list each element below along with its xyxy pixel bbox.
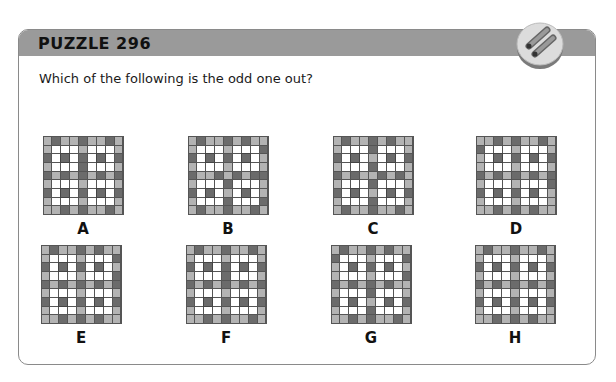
dark-cell: [494, 206, 502, 214]
white-cell: [61, 163, 69, 171]
light-cell: [358, 246, 366, 254]
white-cell: [106, 146, 114, 154]
white-cell: [195, 307, 203, 315]
white-cell: [249, 272, 257, 280]
option-a[interactable]: A: [41, 136, 125, 238]
dark-cell: [369, 163, 377, 171]
option-f[interactable]: F: [184, 245, 268, 347]
dark-cell: [369, 146, 377, 154]
dark-cell: [79, 154, 87, 162]
light-cell: [484, 315, 492, 323]
light-cell: [260, 163, 268, 171]
center-square: [494, 189, 502, 197]
light-cell: [59, 246, 67, 254]
light-cell: [548, 163, 556, 171]
light-cell: [206, 137, 214, 145]
white-cell: [213, 255, 221, 263]
light-cell: [403, 281, 411, 289]
white-cell: [195, 298, 203, 306]
white-cell: [530, 163, 538, 171]
white-cell: [539, 146, 547, 154]
dark-cell: [385, 281, 393, 289]
light-cell: [376, 315, 384, 323]
light-cell: [548, 146, 556, 154]
option-h[interactable]: H: [473, 245, 557, 347]
white-cell: [104, 263, 112, 271]
dark-cell: [511, 281, 519, 289]
pattern-grid: [476, 136, 557, 215]
light-cell: [240, 246, 248, 254]
puzzle-header-band: PUZZLE 296: [19, 30, 595, 56]
dark-cell: [77, 298, 85, 306]
option-e[interactable]: E: [39, 245, 123, 347]
light-cell: [332, 307, 340, 315]
white-cell: [529, 289, 537, 297]
light-cell: [485, 137, 493, 145]
light-cell: [405, 137, 413, 145]
dark-cell: [251, 172, 259, 180]
white-cell: [538, 255, 546, 263]
dark-cell: [369, 137, 377, 145]
white-cell: [50, 298, 58, 306]
white-cell: [538, 307, 546, 315]
center-square: [59, 263, 67, 271]
dark-cell: [405, 154, 413, 162]
white-cell: [484, 272, 492, 280]
dark-cell: [403, 272, 411, 280]
light-cell: [61, 137, 69, 145]
light-cell: [520, 246, 528, 254]
white-cell: [231, 272, 239, 280]
dark-cell: [547, 298, 555, 306]
white-cell: [520, 289, 528, 297]
light-cell: [242, 206, 250, 214]
white-cell: [396, 189, 404, 197]
dark-cell: [197, 137, 205, 145]
light-cell: [231, 246, 239, 254]
white-cell: [520, 263, 528, 271]
dark-cell: [61, 206, 69, 214]
white-cell: [197, 146, 205, 154]
white-cell: [376, 307, 384, 315]
option-c[interactable]: C: [331, 136, 415, 238]
white-cell: [231, 298, 239, 306]
pattern-grid: [331, 245, 412, 324]
white-cell: [376, 289, 384, 297]
white-cell: [204, 255, 212, 263]
option-g[interactable]: G: [329, 245, 413, 347]
white-cell: [215, 198, 223, 206]
light-cell: [340, 281, 348, 289]
white-cell: [88, 154, 96, 162]
option-label: C: [331, 220, 415, 238]
option-d[interactable]: D: [474, 136, 558, 238]
light-cell: [403, 315, 411, 323]
dark-cell: [476, 281, 484, 289]
light-cell: [233, 137, 241, 145]
white-cell: [340, 307, 348, 315]
dark-cell: [394, 315, 402, 323]
white-cell: [484, 289, 492, 297]
white-cell: [342, 154, 350, 162]
light-cell: [405, 206, 413, 214]
option-b[interactable]: B: [186, 136, 270, 238]
light-cell: [547, 246, 555, 254]
white-cell: [86, 307, 94, 315]
light-cell: [79, 146, 87, 154]
light-cell: [68, 246, 76, 254]
light-cell: [224, 163, 232, 171]
dark-cell: [222, 246, 230, 254]
white-cell: [358, 298, 366, 306]
center-square: [97, 154, 105, 162]
white-cell: [88, 146, 96, 154]
light-cell: [233, 206, 241, 214]
light-cell: [332, 289, 340, 297]
light-cell: [77, 255, 85, 263]
dark-cell: [512, 189, 520, 197]
center-square: [349, 263, 357, 271]
white-cell: [521, 146, 529, 154]
white-cell: [360, 163, 368, 171]
light-cell: [88, 172, 96, 180]
dark-cell: [342, 137, 350, 145]
dark-cell: [59, 281, 67, 289]
white-cell: [502, 263, 510, 271]
dark-cell: [512, 206, 520, 214]
